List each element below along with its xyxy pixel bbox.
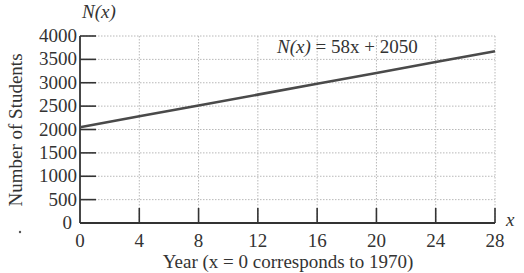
x-tick-label: 4 <box>135 230 145 251</box>
y-tick-label: 1000 <box>39 165 77 186</box>
equation-label: N(x) = 58x + 2050 <box>276 36 418 58</box>
y-tick-label: 4000 <box>39 25 77 46</box>
equation-lhs: N(x) <box>276 36 311 58</box>
x-tick-labels: 0481216202428 <box>75 230 504 251</box>
y-tick-label: 2000 <box>39 119 77 140</box>
x-tick-label: 12 <box>248 230 267 251</box>
y-tick-labels: 05001000150020002500300035004000 <box>39 25 77 233</box>
x-axis-symbol: x <box>505 209 515 230</box>
y-tick-label: 1500 <box>39 142 77 163</box>
x-axis-title: Year (x = 0 corresponds to 1970) <box>163 251 413 273</box>
x-tick-label: 24 <box>426 230 446 251</box>
y-tick-label: 500 <box>49 189 78 210</box>
function-line <box>80 51 495 127</box>
x-tick-label: 8 <box>194 230 204 251</box>
y-tick-label: 0 <box>63 212 73 233</box>
line-chart: 05001000150020002500300035004000 0481216… <box>0 0 524 273</box>
x-tick-label: 0 <box>75 230 85 251</box>
grid-lines <box>80 36 495 223</box>
x-tick-label: 20 <box>367 230 386 251</box>
y-tick-label: 2500 <box>39 95 77 116</box>
y-tick-label: 3000 <box>39 72 77 93</box>
y-axis-title: Number of Students <box>5 53 26 206</box>
y-axis-symbol: N(x) <box>81 1 116 23</box>
equation-rhs: = 58x + 2050 <box>311 36 418 57</box>
y-tick-label: 3500 <box>39 48 77 69</box>
x-tick-label: 28 <box>486 230 505 251</box>
x-tick-label: 16 <box>308 230 327 251</box>
stray-dot <box>19 231 21 233</box>
